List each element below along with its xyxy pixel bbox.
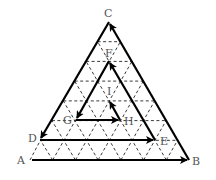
label-H: H	[124, 115, 134, 128]
label-F: F	[105, 47, 113, 60]
label-B: B	[192, 155, 200, 168]
label-E: E	[160, 135, 168, 148]
segment-E-F	[110, 63, 155, 140]
label-D: D	[28, 132, 37, 145]
label-C: C	[104, 7, 112, 20]
label-G: G	[63, 114, 72, 127]
label-A: A	[16, 154, 26, 167]
label-I: I	[107, 85, 111, 98]
segment-H-I	[110, 102, 120, 120]
spiral-triangle-diagram: A B C D E F G H I	[0, 0, 216, 180]
point-labels: A B C D E F G H I	[16, 7, 200, 168]
